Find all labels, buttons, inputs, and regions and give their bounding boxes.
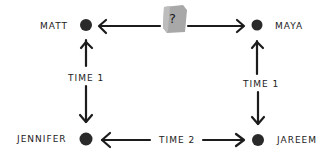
node-jennifer-icon	[80, 133, 93, 146]
node-jareem-icon	[252, 134, 264, 146]
node-label-maya: MAYA	[275, 21, 303, 31]
node-label-matt: MATT	[40, 21, 68, 31]
node-label-jareem: JAREEM	[277, 135, 317, 145]
node-matt-icon	[80, 19, 92, 31]
node-maya-icon	[252, 20, 263, 31]
edge-label-right-time1: TIME 1	[243, 79, 279, 89]
node-label-jennifer: JENNIFER	[17, 134, 67, 144]
network-diagram: ? MATT MAYA JENNIFER JAREEM TIME 1 TIME …	[0, 0, 332, 157]
edge-label-bottom-time2: TIME 2	[159, 135, 195, 145]
edge-label-left-time1: TIME 1	[68, 73, 104, 83]
question-mark-label: ?	[169, 12, 176, 26]
